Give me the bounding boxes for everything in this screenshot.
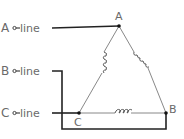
line-c: C line (1, 106, 79, 120)
vertex-a-label: A (115, 10, 123, 23)
line-a-prefix: A (1, 21, 10, 35)
line-b-wire (52, 71, 166, 129)
line-b-label: line (20, 65, 40, 78)
vertex-b-label: B (169, 103, 177, 116)
leg-ab-lower (148, 68, 166, 113)
winding-ab-coil-icon (134, 52, 149, 67)
line-c-terminal-icon (13, 111, 16, 114)
delta-triangle (79, 26, 166, 113)
vertex-a-dot (117, 24, 121, 28)
leg-ac-upper (104, 26, 119, 52)
vertex-c-dot (77, 111, 81, 115)
line-b-prefix: B (1, 64, 9, 78)
line-a-label: line (20, 22, 40, 35)
winding-cb-coil-icon (115, 109, 132, 113)
delta-diagram: A line B line C line (0, 0, 184, 139)
leg-ac-lower (79, 73, 102, 113)
vertex-b-dot (164, 111, 168, 115)
winding-ac-coil-icon (103, 52, 106, 73)
line-b-terminal-icon (13, 69, 16, 72)
line-a-wire (52, 26, 119, 28)
line-a: A line (1, 21, 119, 35)
line-c-label: line (20, 107, 40, 120)
line-c-prefix: C (1, 106, 9, 120)
line-a-terminal-icon (13, 26, 16, 29)
vertex-c-label: C (74, 116, 82, 129)
leg-ab-upper (119, 26, 134, 52)
